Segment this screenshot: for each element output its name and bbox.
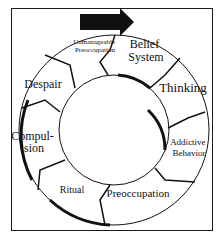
inner-ring xyxy=(59,75,169,185)
label-preoccupation: Preoccupation xyxy=(107,187,170,199)
label-thinking: Thinking xyxy=(159,80,207,95)
label-compulsion: Compul- sion xyxy=(11,129,57,155)
divider-3 xyxy=(168,112,205,128)
divider-4 xyxy=(155,168,195,182)
label-unmanageable-preoccupation: Unmanageable Preoccupation xyxy=(73,38,117,54)
ring-shadow-inner-right xyxy=(148,110,165,150)
label-addictive-behavior: Addictive Behavior xyxy=(170,137,208,158)
label-ritual: Ritual xyxy=(60,184,85,195)
label-despair: Despair xyxy=(24,77,61,91)
cycle-arrow xyxy=(80,8,134,36)
label-belief-system: Belief System xyxy=(128,37,164,64)
addiction-cycle-diagram: Unmanageable Preoccupation Belief System… xyxy=(0,0,223,241)
ring-shadow-inner-top xyxy=(118,75,150,88)
